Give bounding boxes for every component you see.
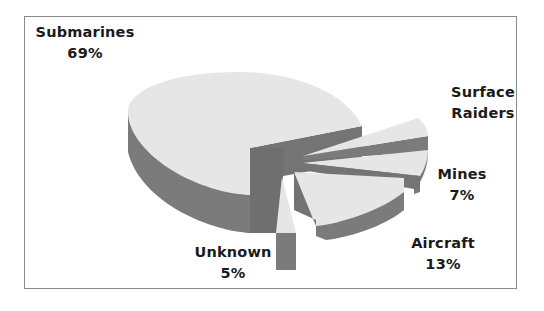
label-unknown: Unknown 5% <box>188 242 278 284</box>
label-submarines-value: 69% <box>30 43 140 64</box>
label-surface-raiders-name: Surface Raiders <box>443 82 523 124</box>
label-aircraft: Aircraft 13% <box>398 233 488 275</box>
label-submarines: Submarines 69% <box>30 22 140 64</box>
label-submarines-name: Submarines <box>30 22 140 43</box>
label-aircraft-name: Aircraft <box>398 233 488 254</box>
label-mines-name: Mines <box>432 164 492 185</box>
label-unknown-name: Unknown <box>188 242 278 263</box>
label-unknown-value: 5% <box>188 263 278 284</box>
slice-aircraft <box>294 172 404 240</box>
label-mines-value: 7% <box>432 185 492 206</box>
label-mines: Mines 7% <box>432 164 492 206</box>
label-aircraft-value: 13% <box>398 254 488 275</box>
label-surface-raiders: Surface Raiders 7% <box>443 82 523 124</box>
